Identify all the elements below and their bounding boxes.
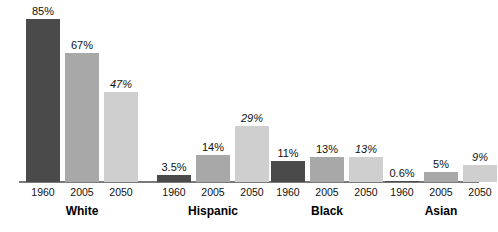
- bar-slot[interactable]: 47%: [104, 76, 138, 182]
- year-tick-row: 196020052050: [26, 186, 138, 200]
- bar-value-label: 5%: [433, 158, 449, 170]
- group-label: White: [26, 204, 138, 218]
- bar-slot[interactable]: 14%: [196, 139, 230, 182]
- year-label: 2005: [196, 186, 230, 199]
- year-label: 2050: [235, 186, 269, 199]
- bar[interactable]: [385, 181, 419, 182]
- bar[interactable]: [157, 175, 191, 182]
- bar-slot[interactable]: 13%: [310, 141, 344, 182]
- bar-slot[interactable]: 85%: [26, 3, 60, 182]
- bar[interactable]: [424, 172, 458, 182]
- bars-area: 3.5%14%29%: [157, 0, 269, 182]
- year-label: 2005: [424, 186, 458, 199]
- bar-group: 11%13%13%196020052050Black: [271, 0, 383, 232]
- year-label: 2005: [310, 186, 344, 199]
- year-label: 2005: [65, 186, 99, 199]
- group-label: Hispanic: [157, 204, 269, 218]
- bar-slot[interactable]: 5%: [424, 156, 458, 182]
- bar-slot[interactable]: 0.6%: [385, 165, 419, 182]
- year-label: 2050: [104, 186, 138, 199]
- bar[interactable]: [26, 19, 60, 182]
- bar-value-label: 29%: [241, 112, 263, 124]
- bar-slot[interactable]: 3.5%: [157, 159, 191, 182]
- year-label: 1960: [26, 186, 60, 199]
- bar-value-label: 85%: [32, 5, 54, 17]
- bar[interactable]: [65, 53, 99, 182]
- bar-value-label: 11%: [277, 147, 298, 159]
- group-label: Black: [271, 204, 383, 218]
- bar-slot[interactable]: 9%: [463, 149, 497, 182]
- bar-group: 0.6%5%9%196020052050Asian: [385, 0, 497, 232]
- year-label: 2050: [349, 186, 383, 199]
- bar[interactable]: [463, 165, 497, 182]
- year-label: 1960: [157, 186, 191, 199]
- bars-area: 85%67%47%: [26, 0, 138, 182]
- bar-value-label: 13%: [316, 143, 338, 155]
- bar-slot[interactable]: 29%: [235, 110, 269, 182]
- bar-group: 3.5%14%29%196020052050Hispanic: [157, 0, 269, 232]
- year-label: 1960: [271, 186, 305, 199]
- bar-value-label: 47%: [110, 78, 132, 90]
- bar-chart: 85%67%47%196020052050White3.5%14%29%1960…: [0, 0, 498, 232]
- bar[interactable]: [235, 126, 269, 182]
- bar-value-label: 67%: [71, 39, 93, 51]
- bar-value-label: 14%: [202, 141, 224, 153]
- year-label: 1960: [385, 186, 419, 199]
- bar[interactable]: [310, 157, 344, 182]
- bar-slot[interactable]: 13%: [349, 141, 383, 182]
- bar-value-label: 13%: [355, 143, 377, 155]
- group-label: Asian: [385, 204, 497, 218]
- bars-area: 11%13%13%: [271, 0, 383, 182]
- bar-value-label: 0.6%: [389, 167, 414, 179]
- bar[interactable]: [196, 155, 230, 182]
- bar-value-label: 9%: [472, 151, 488, 163]
- bar[interactable]: [104, 92, 138, 182]
- bar-group: 85%67%47%196020052050White: [26, 0, 138, 232]
- year-tick-row: 196020052050: [157, 186, 269, 200]
- year-label: 2050: [463, 186, 497, 199]
- bar-slot[interactable]: 11%: [271, 145, 305, 182]
- bar-slot[interactable]: 67%: [65, 37, 99, 182]
- bar[interactable]: [349, 157, 383, 182]
- year-tick-row: 196020052050: [385, 186, 497, 200]
- bar[interactable]: [271, 161, 305, 182]
- year-tick-row: 196020052050: [271, 186, 383, 200]
- bar-value-label: 3.5%: [161, 161, 186, 173]
- bars-area: 0.6%5%9%: [385, 0, 497, 182]
